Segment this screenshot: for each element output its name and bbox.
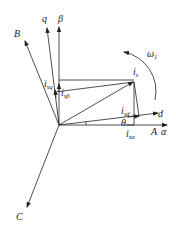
label-alpha: α — [161, 126, 167, 137]
rotation-arc — [124, 52, 156, 100]
vector-diagram: B q β C A α d is isd isq isβ isα θ ω1 — [0, 0, 176, 233]
label-isq: isq — [44, 78, 53, 90]
label-beta: β — [57, 13, 63, 24]
label-q: q — [42, 13, 47, 24]
label-theta: θ — [121, 117, 126, 128]
label-a: A — [150, 126, 158, 137]
label-d: d — [158, 108, 164, 119]
label-omega: ω1 — [147, 48, 157, 60]
label-isd: isd — [121, 105, 130, 117]
label-b: B — [14, 28, 20, 39]
is-q-projection — [55, 82, 134, 92]
label-is: is — [133, 66, 139, 78]
label-isalpha: isα — [126, 128, 135, 140]
c-axis — [27, 125, 59, 207]
is-d-projection — [134, 82, 139, 116]
d-axis — [59, 113, 158, 125]
label-c: C — [16, 211, 23, 222]
label-isbeta: isβ — [61, 87, 70, 99]
